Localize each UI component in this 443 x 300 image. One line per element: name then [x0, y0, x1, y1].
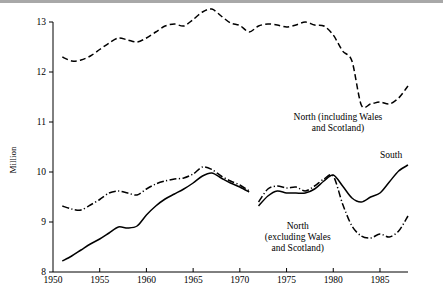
series-label-north-excluding-line3: and Scotland) — [272, 243, 325, 254]
axes-group: 8910111213195019551960196519701975198019… — [8, 17, 408, 285]
x-tick-label: 1955 — [90, 275, 109, 285]
y-tick-label: 12 — [37, 67, 47, 77]
x-tick-label: 1980 — [324, 275, 343, 285]
y-axis-title: Million — [8, 146, 18, 174]
y-tick-label: 10 — [37, 167, 47, 177]
series-group — [62, 9, 408, 261]
series-label-north-including: North (including Wales — [294, 112, 383, 123]
series-label-south: South — [380, 150, 402, 160]
y-tick-label: 9 — [41, 217, 46, 227]
y-tick-label: 11 — [37, 117, 46, 127]
series-line-1-0 — [62, 167, 249, 210]
series-line-0-0 — [62, 9, 408, 108]
x-tick-label: 1975 — [277, 275, 296, 285]
series-label-north-excluding: North — [287, 221, 309, 231]
series-line-2-1 — [259, 165, 408, 206]
chart-svg: 8910111213195019551960196519701975198019… — [0, 0, 443, 300]
x-tick-label: 1970 — [230, 275, 249, 285]
annotations-group: North (including Walesand Scotland)North… — [265, 112, 403, 255]
x-tick-label: 1985 — [370, 275, 389, 285]
series-label-north-excluding-line2: (excluding Wales — [265, 232, 331, 243]
series-line-1-1 — [259, 175, 408, 238]
x-tick-label: 1950 — [44, 275, 63, 285]
series-label-north-including-line2: and Scotland) — [312, 123, 365, 134]
population-line-chart: 8910111213195019551960196519701975198019… — [0, 0, 443, 300]
y-tick-label: 13 — [37, 17, 47, 27]
series-line-2-0 — [62, 173, 249, 261]
x-tick-label: 1965 — [184, 275, 203, 285]
x-tick-label: 1960 — [137, 275, 156, 285]
